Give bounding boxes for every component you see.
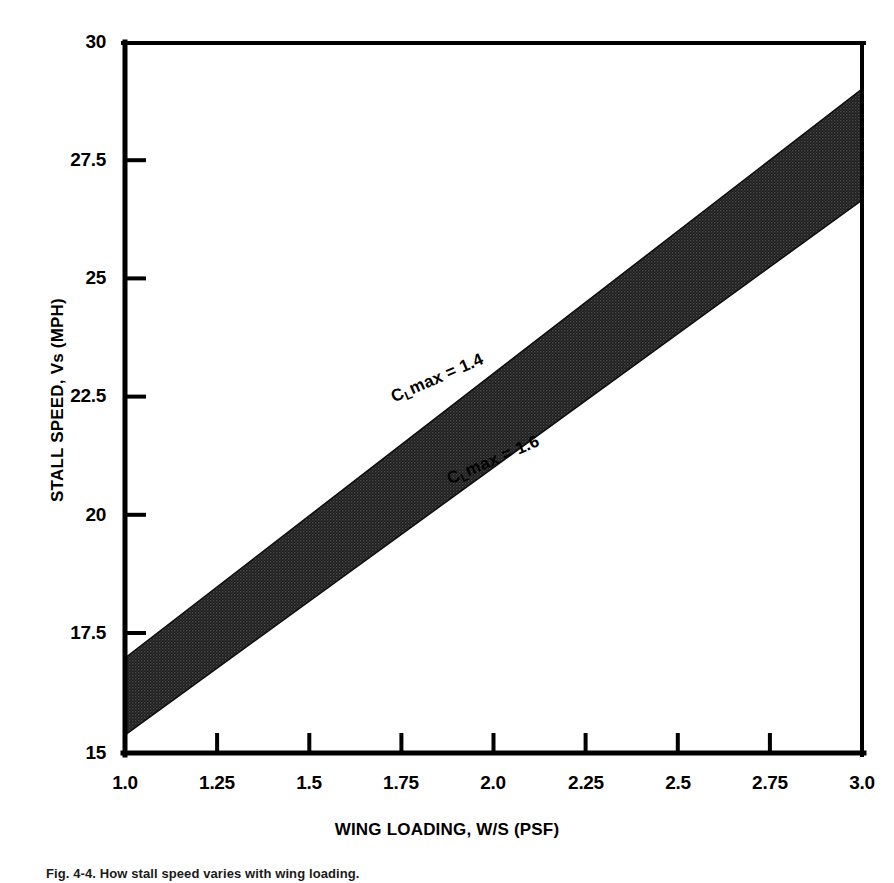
x-tick-label-1-25: 1.25 (177, 772, 257, 794)
y-tick-label-25: 25 (36, 267, 106, 289)
y-tick-label-15: 15 (36, 742, 106, 764)
y-tick-label-17-5: 17.5 (36, 622, 106, 644)
x-tick-label-1-75: 1.75 (361, 772, 441, 794)
x-tick-label-3-0: 3.0 (822, 772, 894, 794)
x-axis-ticks (217, 733, 770, 753)
x-tick-label-2-75: 2.75 (730, 772, 810, 794)
x-axis-title: WING LOADING, W/S (PSF) (0, 820, 894, 840)
clmax-band (125, 89, 862, 735)
y-tick-label-30: 30 (36, 31, 106, 53)
x-tick-label-2-5: 2.5 (638, 772, 718, 794)
stall-speed-chart (0, 0, 894, 883)
y-tick-label-22-5: 22.5 (36, 385, 106, 407)
y-tick-label-27-5: 27.5 (36, 149, 106, 171)
x-tick-label-2-25: 2.25 (546, 772, 626, 794)
x-tick-label-1-5: 1.5 (269, 772, 349, 794)
figure-caption: Fig. 4-4. How stall speed varies with wi… (46, 866, 360, 881)
x-tick-label-2-0: 2.0 (453, 772, 533, 794)
y-tick-label-20: 20 (36, 504, 106, 526)
y-axis-title: STALL SPEED, Vs (MPH) (48, 250, 68, 550)
y-axis-ticks (125, 160, 146, 633)
figure-container: 30 27.5 25 22.5 20 17.5 15 1.0 1.25 1.5 … (0, 0, 894, 883)
x-tick-label-1-0: 1.0 (85, 772, 165, 794)
